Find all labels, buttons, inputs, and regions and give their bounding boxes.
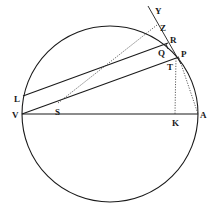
chord-VP [22, 57, 179, 114]
label-Y: Y [155, 6, 162, 16]
label-L: L [14, 94, 20, 104]
dotted-SY [58, 25, 157, 103]
label-R: R [170, 35, 177, 45]
label-Q: Q [158, 48, 165, 58]
label-A: A [200, 110, 207, 120]
label-K: K [172, 118, 179, 128]
label-V: V [12, 110, 19, 120]
chord-LR [23, 43, 168, 96]
dotted-PK [175, 58, 176, 114]
label-P: P [181, 49, 187, 59]
label-T: T [167, 62, 173, 72]
geometry-figure: Y Z R P Q T L S V K A [0, 0, 213, 214]
label-Z: Z [160, 23, 166, 33]
dotted-PA [179, 58, 198, 114]
label-S: S [55, 107, 60, 117]
